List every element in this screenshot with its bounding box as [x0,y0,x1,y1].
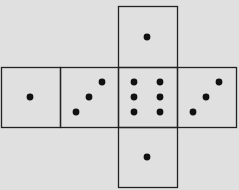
pip-dot [86,94,93,101]
face-center-left [61,68,119,128]
pip-dot [131,79,138,86]
pip-dot [157,109,164,116]
pip-dot [203,94,210,101]
face-center [119,68,178,128]
pip-dot [157,79,164,86]
die-net-diagram [0,0,239,190]
pip-dot [73,109,80,116]
pip-dot [216,79,223,86]
pip-dot [190,109,197,116]
pip-dot [131,94,138,101]
pip-dot [144,34,151,41]
pip-dot [144,154,151,161]
pip-dot [99,79,106,86]
face-bottom [119,128,178,188]
face-left [2,68,61,128]
face-top [119,7,178,68]
pip-dot [27,94,34,101]
pip-dot [157,94,164,101]
pip-dot [131,109,138,116]
face-border [119,68,178,128]
face-right [178,68,237,128]
